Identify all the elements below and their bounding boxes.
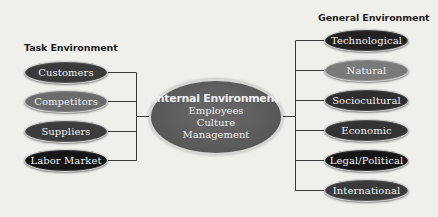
node-label: International: [333, 185, 401, 196]
internal-item-employees: Employees: [188, 105, 243, 117]
node-label: Economic: [341, 125, 391, 136]
node-label: Suppliers: [41, 126, 90, 137]
general-node-legal-political: Legal/Political: [324, 149, 409, 172]
task-node-customers: Customers: [24, 61, 108, 84]
node-label: Customers: [38, 67, 93, 78]
general-node-natural: Natural: [324, 59, 409, 82]
general-node-technological: Technological: [324, 29, 409, 52]
internal-item-management: Management: [183, 129, 250, 141]
node-label: Technological: [331, 35, 402, 46]
node-label: Natural: [347, 65, 387, 76]
general-node-sociocultural: Sociocultural: [324, 89, 409, 112]
internal-environment-title: Internal Environment: [153, 93, 279, 105]
task-node-labor-market: Labor Market: [24, 149, 108, 172]
general-node-international: International: [324, 179, 409, 202]
node-label: Legal/Political: [330, 155, 404, 166]
task-environment-title: Task Environment: [24, 42, 118, 53]
task-node-suppliers: Suppliers: [24, 120, 108, 143]
task-node-competitors: Competitors: [24, 90, 108, 113]
environment-diagram: Task Environment Customers Competitors S…: [0, 0, 438, 217]
general-node-economic: Economic: [324, 119, 409, 142]
node-label: Competitors: [34, 96, 98, 107]
node-label: Labor Market: [30, 155, 101, 166]
internal-environment-node: Internal Environment Employees Culture M…: [149, 79, 283, 155]
node-label: Sociocultural: [332, 95, 401, 106]
internal-item-culture: Culture: [197, 117, 235, 129]
general-environment-title: General Environment: [318, 12, 430, 23]
